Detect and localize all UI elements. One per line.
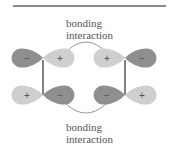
- sign-plus: +: [104, 53, 110, 64]
- sign-minus: −: [104, 90, 110, 101]
- sign-plus: +: [139, 90, 145, 101]
- label-line2: interaction: [66, 133, 113, 145]
- label-line1: bonding: [66, 17, 113, 29]
- label-line2: interaction: [66, 29, 113, 41]
- sign-minus: −: [57, 90, 63, 101]
- top-rule: [13, 5, 166, 7]
- sign-plus: +: [57, 53, 63, 64]
- top-bonding-label: bonding interaction: [66, 17, 113, 41]
- sign-minus: −: [24, 53, 30, 64]
- bottom-bonding-label: bonding interaction: [66, 121, 113, 145]
- sign-minus: −: [139, 53, 145, 64]
- sign-plus: +: [24, 90, 30, 101]
- bottom-bonding-arc: [66, 104, 106, 113]
- label-line1: bonding: [66, 121, 113, 133]
